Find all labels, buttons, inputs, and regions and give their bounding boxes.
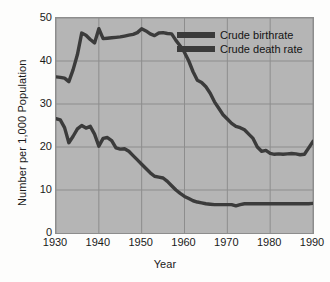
legend-label: Crude birthrate	[220, 30, 293, 41]
y-axis-tick-label: 40	[26, 54, 52, 66]
y-axis-title: Number per 1,000 Population	[16, 60, 28, 206]
x-axis-tick-label: 1970	[214, 236, 238, 248]
x-axis-tick-label: 1930	[43, 236, 67, 248]
x-axis-tick-label: 1960	[171, 236, 195, 248]
x-axis-title: Year	[0, 258, 330, 270]
plot-area: Crude birthrate Crude death rate	[55, 17, 314, 234]
legend-item-crude-birthrate: Crude birthrate	[177, 29, 303, 41]
y-axis-tick-label: 50	[26, 11, 52, 23]
y-axis-tick-label: 10	[26, 183, 52, 195]
legend: Crude birthrate Crude death rate	[177, 29, 303, 55]
legend-swatch-icon	[177, 32, 215, 38]
legend-item-crude-death-rate: Crude death rate	[177, 43, 303, 55]
legend-swatch-icon	[177, 46, 215, 52]
y-axis-tick-label: 20	[26, 140, 52, 152]
x-axis-tick-label: 1950	[128, 236, 152, 248]
x-axis-tick-label: 1990	[300, 236, 324, 248]
x-axis-tick-label: 1940	[86, 236, 110, 248]
legend-label: Crude death rate	[220, 44, 303, 55]
x-axis-tick-label: 1980	[257, 236, 281, 248]
y-axis-tick-label: 30	[26, 97, 52, 109]
chart-figure: 50403020100 Number per 1,000 Population …	[0, 0, 330, 282]
